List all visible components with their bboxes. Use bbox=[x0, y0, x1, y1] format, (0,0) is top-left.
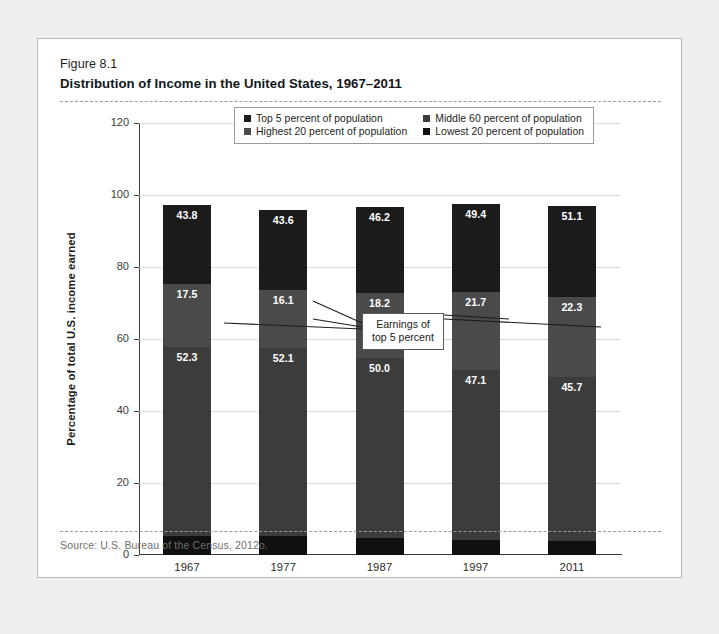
x-tick-label: 1967 bbox=[157, 561, 217, 573]
bar-group[interactable]: 45.722.351.1 bbox=[548, 206, 596, 555]
bar-segment[interactable]: 46.2 bbox=[356, 207, 404, 293]
legend-item: Highest 20 percent of population bbox=[244, 126, 407, 137]
bar-segment[interactable]: 45.7 bbox=[548, 377, 596, 542]
bar-value-label: 21.7 bbox=[465, 292, 486, 308]
y-tick-label: 20 bbox=[95, 476, 129, 488]
bar-segment[interactable]: 50.0 bbox=[356, 358, 404, 538]
callout-box: Earnings of top 5 percent bbox=[362, 313, 444, 350]
bar-segment[interactable] bbox=[452, 540, 500, 555]
bar-value-label: 47.1 bbox=[465, 370, 486, 386]
bar-segment[interactable]: 49.4 bbox=[452, 204, 500, 292]
figure-title: Distribution of Income in the United Sta… bbox=[60, 74, 660, 93]
chart-legend: Top 5 percent of populationMiddle 60 per… bbox=[234, 107, 594, 144]
bar-segment[interactable]: 52.3 bbox=[163, 347, 211, 535]
y-axis-label: Percentage of total U.S. income earned bbox=[65, 232, 77, 445]
divider-bottom bbox=[60, 531, 661, 532]
bar-value-label: 45.7 bbox=[561, 377, 582, 393]
figure-header: Figure 8.1 Distribution of Income in the… bbox=[60, 55, 660, 93]
y-tick-mark bbox=[134, 195, 139, 196]
y-tick-mark bbox=[134, 339, 139, 340]
legend-item: Lowest 20 percent of population bbox=[423, 126, 584, 137]
legend-swatch-icon bbox=[244, 115, 251, 122]
y-tick-label: 120 bbox=[95, 116, 129, 128]
figure-card: Figure 8.1 Distribution of Income in the… bbox=[37, 38, 682, 578]
x-tick-label: 1997 bbox=[446, 561, 506, 573]
legend-item: Middle 60 percent of population bbox=[423, 113, 584, 124]
bar-segment[interactable]: 16.1 bbox=[259, 290, 307, 348]
legend-swatch-icon bbox=[423, 115, 430, 122]
legend-label: Middle 60 percent of population bbox=[435, 113, 582, 124]
legend-label: Top 5 percent of population bbox=[256, 113, 383, 124]
bar-value-label: 16.1 bbox=[273, 290, 294, 306]
y-tick-mark bbox=[134, 267, 139, 268]
legend-grid: Top 5 percent of populationMiddle 60 per… bbox=[244, 113, 584, 137]
bar-value-label: 52.1 bbox=[273, 348, 294, 364]
gridline bbox=[139, 195, 620, 196]
bar-value-label: 51.1 bbox=[561, 206, 582, 222]
bar-segment[interactable] bbox=[548, 541, 596, 555]
bar-segment[interactable]: 22.3 bbox=[548, 297, 596, 377]
bar-value-label: 46.2 bbox=[369, 207, 390, 223]
legend-swatch-icon bbox=[423, 128, 430, 135]
bar-segment[interactable]: 43.6 bbox=[259, 210, 307, 290]
legend-item: Top 5 percent of population bbox=[244, 113, 407, 124]
figure-number: Figure 8.1 bbox=[60, 55, 660, 73]
x-tick-label: 2011 bbox=[542, 561, 602, 573]
bar-group[interactable]: 47.121.749.4 bbox=[452, 204, 500, 555]
x-tick-label: 1977 bbox=[253, 561, 313, 573]
y-tick-label: 60 bbox=[95, 332, 129, 344]
bar-segment[interactable] bbox=[356, 538, 404, 555]
bar-value-label: 52.3 bbox=[177, 347, 198, 363]
bar-value-label: 50.0 bbox=[369, 358, 390, 374]
y-tick-label: 40 bbox=[95, 404, 129, 416]
bar-value-label: 43.6 bbox=[273, 210, 294, 226]
y-tick-mark bbox=[134, 123, 139, 124]
bar-segment[interactable]: 17.5 bbox=[163, 284, 211, 347]
bar-segment[interactable]: 47.1 bbox=[452, 370, 500, 540]
page-background: Figure 8.1 Distribution of Income in the… bbox=[0, 0, 719, 634]
bar-segment[interactable]: 52.1 bbox=[259, 348, 307, 536]
y-tick-mark bbox=[134, 411, 139, 412]
y-tick-label: 100 bbox=[95, 188, 129, 200]
source-note: Source: U.S. Bureau of the Census, 2012o… bbox=[60, 539, 268, 551]
bar-segment[interactable]: 43.8 bbox=[163, 205, 211, 284]
bar-value-label: 43.8 bbox=[177, 205, 198, 221]
bar-value-label: 17.5 bbox=[177, 284, 198, 300]
bar-value-label: 22.3 bbox=[561, 297, 582, 313]
bar-value-label: 49.4 bbox=[465, 204, 486, 220]
bar-group[interactable]: 50.018.246.2 bbox=[356, 207, 404, 555]
y-tick-label: 80 bbox=[95, 260, 129, 272]
y-tick-mark bbox=[134, 555, 139, 556]
bar-value-label: 18.2 bbox=[369, 293, 390, 309]
bar-segment[interactable]: 51.1 bbox=[548, 206, 596, 297]
bar-segment[interactable]: 21.7 bbox=[452, 292, 500, 370]
bar-group[interactable]: 52.116.143.6 bbox=[259, 210, 307, 555]
legend-label: Lowest 20 percent of population bbox=[435, 126, 584, 137]
y-tick-mark bbox=[134, 483, 139, 484]
legend-swatch-icon bbox=[244, 128, 251, 135]
legend-label: Highest 20 percent of population bbox=[256, 126, 407, 137]
y-axis-label-wrap: Percentage of total U.S. income earned bbox=[62, 123, 80, 555]
callout-line-2: top 5 percent bbox=[372, 331, 434, 344]
bar-group[interactable]: 52.317.543.8 bbox=[163, 205, 211, 555]
callout-line-1: Earnings of bbox=[372, 318, 434, 331]
x-tick-label: 1987 bbox=[350, 561, 410, 573]
chart-container: Percentage of total U.S. income earned 0… bbox=[38, 101, 683, 531]
